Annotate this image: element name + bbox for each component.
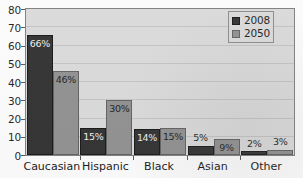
y-tick-mark (21, 137, 25, 138)
y-tick-label: 80 (8, 5, 21, 16)
bar-2050-hispanic: 30% (106, 100, 132, 155)
y-tick-label: 10 (8, 132, 21, 143)
bar-2050-black: 15% (160, 128, 186, 155)
bar-value-label: 2% (242, 139, 266, 149)
bar-value-label: 66% (28, 39, 52, 49)
legend-swatch-icon (232, 17, 240, 25)
y-tick-mark (21, 100, 25, 101)
y-tick-label: 70 (8, 23, 21, 34)
legend-item-2008: 2008 (232, 14, 270, 27)
legend-swatch-icon (232, 30, 240, 38)
bar-value-label: 9% (215, 143, 239, 153)
y-tick-label: 40 (8, 78, 21, 89)
legend-item-2050: 2050 (232, 27, 270, 40)
x-category-label-black: Black (144, 160, 174, 173)
bar-2050-caucasian: 46% (53, 71, 79, 155)
x-axis: CaucasianHispanicBlackAsianOther (25, 160, 295, 176)
bar-2008-hispanic: 15% (80, 128, 106, 155)
bar-value-label: 5% (189, 133, 213, 143)
bar-2008-caucasian: 66% (27, 35, 53, 155)
y-tick-label: 50 (8, 59, 21, 70)
y-tick-label: 60 (8, 41, 21, 52)
bar-group: 14%15% (133, 9, 187, 155)
x-category-label-asian: Asian (198, 160, 228, 173)
x-category-label-other: Other (251, 160, 282, 173)
bar-value-label: 3% (268, 137, 292, 147)
bar-value-label: 14% (135, 133, 159, 143)
y-tick-label: 30 (8, 96, 21, 107)
legend-label: 2050 (244, 28, 270, 39)
bar-chart: 01020304050607080 66%46%15%30%14%15%5%9%… (0, 0, 303, 178)
bar-2050-other: 3% (267, 150, 293, 155)
bar-group: 66%46% (26, 9, 80, 155)
bar-2008-asian: 5% (188, 146, 214, 155)
legend-label: 2008 (244, 15, 270, 26)
bar-2008-other: 2% (241, 151, 267, 155)
bar-2008-black: 14% (134, 129, 160, 155)
y-tick-mark (21, 119, 25, 120)
y-tick-mark (21, 27, 25, 28)
x-category-label-hispanic: Hispanic (82, 160, 129, 173)
bar-value-label: 46% (54, 75, 78, 85)
y-tick-mark (21, 9, 25, 10)
x-category-label-caucasian: Caucasian (23, 160, 80, 173)
bar-value-label: 15% (161, 132, 185, 142)
bar-2050-asian: 9% (214, 139, 240, 155)
bar-value-label: 15% (81, 132, 105, 142)
y-tick-mark (21, 82, 25, 83)
bar-group: 15%30% (80, 9, 134, 155)
chart-legend: 20082050 (228, 11, 274, 43)
y-tick-label: 20 (8, 114, 21, 125)
y-tick-mark (21, 46, 25, 47)
bar-value-label: 30% (107, 104, 131, 114)
y-axis: 01020304050607080 (0, 8, 21, 156)
y-tick-mark (21, 64, 25, 65)
